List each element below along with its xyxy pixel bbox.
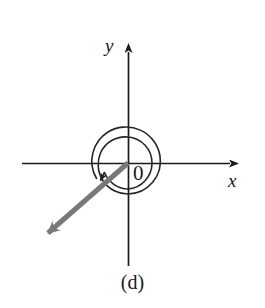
figure-canvas <box>0 0 265 308</box>
figure-caption: (d) <box>0 272 265 292</box>
figure-panel-d: y x 0 (d) <box>0 0 265 308</box>
y-axis-label: y <box>105 36 113 55</box>
resultant-vector <box>48 163 128 233</box>
origin-label: 0 <box>133 163 144 184</box>
x-axis-label: x <box>228 171 236 190</box>
